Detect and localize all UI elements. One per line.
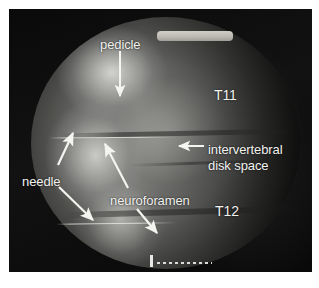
label-vertebra-t12: T12 xyxy=(215,204,239,219)
scale-tick xyxy=(150,255,153,267)
label-intervertebral-line1: intervertebral xyxy=(208,142,282,157)
scale-dotted-line xyxy=(157,262,212,264)
label-pedicle: pedicle xyxy=(100,37,141,52)
scale-marker xyxy=(150,255,212,267)
collimator-bar xyxy=(157,31,233,41)
radiograph-figure: pedicle T11 intervertebral disk space ne… xyxy=(0,0,319,288)
label-intervertebral-line2: disk space xyxy=(208,158,268,173)
label-vertebra-t11: T11 xyxy=(214,88,237,103)
label-intervertebral-disk-space: intervertebral disk space xyxy=(208,142,312,174)
label-needle: needle xyxy=(22,174,60,189)
label-neuroforamen: neuroforamen xyxy=(110,193,190,208)
radiograph-panel: pedicle T11 intervertebral disk space ne… xyxy=(9,9,312,272)
